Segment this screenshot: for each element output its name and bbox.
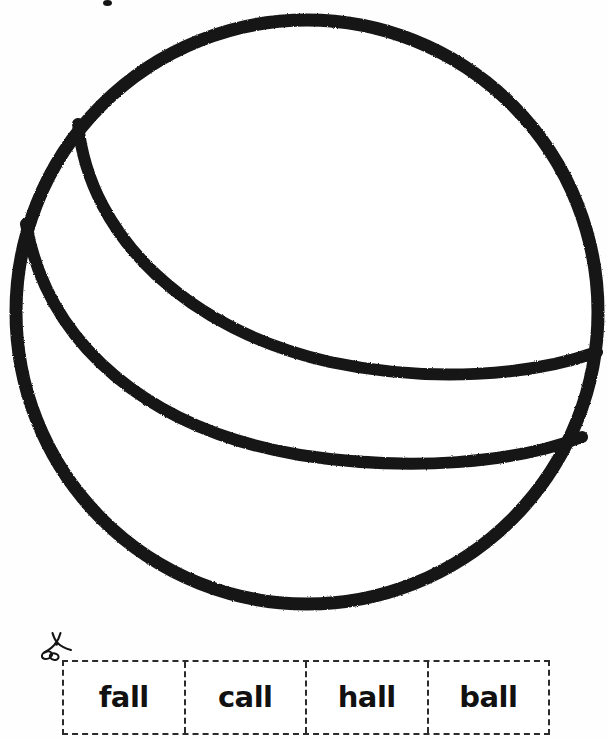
word-label: ball	[459, 683, 517, 712]
word-label: fall	[99, 683, 149, 712]
scissors-glyph	[40, 629, 76, 662]
ball-svg	[0, 0, 607, 625]
ball-illustration	[0, 0, 607, 625]
word-cell-2[interactable]: call	[184, 662, 306, 733]
scissors-icon	[40, 629, 76, 662]
word-strip-container: fall call hall ball	[62, 660, 550, 735]
word-cell-1[interactable]: fall	[64, 662, 184, 733]
ball-outline-circle	[16, 20, 598, 604]
worksheet-page: fall call hall ball	[0, 0, 607, 739]
word-cell-4[interactable]: ball	[427, 662, 549, 733]
word-label: call	[218, 683, 273, 712]
word-label: hall	[338, 683, 396, 712]
word-cell-3[interactable]: hall	[305, 662, 427, 733]
